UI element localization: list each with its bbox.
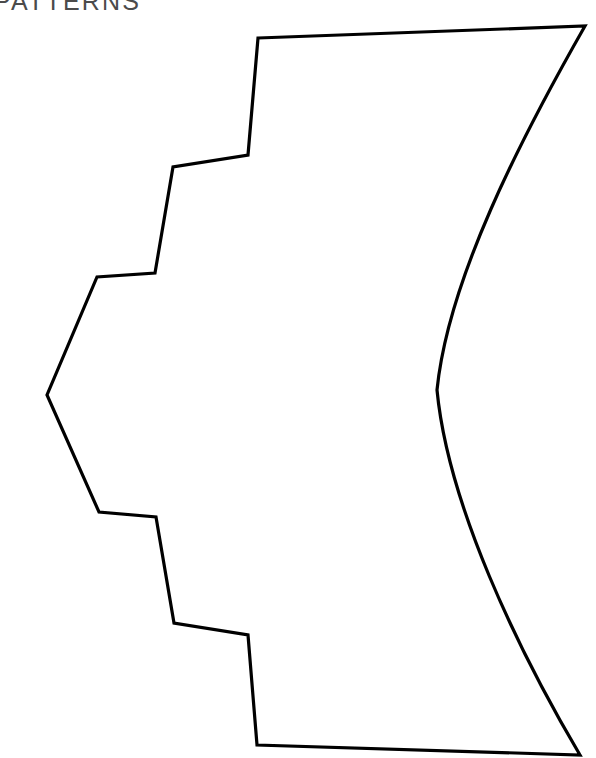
pattern-scan-page: PATTERNS (0, 0, 596, 758)
pattern-outline-path (47, 26, 585, 755)
pattern-figure (0, 0, 596, 758)
pattern-outline-svg (0, 0, 596, 758)
